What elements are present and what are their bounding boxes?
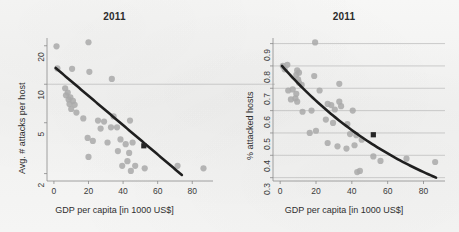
scatter-point bbox=[338, 103, 344, 109]
panel-left-y-axis-title: Avg. # attacks per host bbox=[17, 83, 27, 174]
scatter-point bbox=[370, 153, 376, 159]
scatter-point bbox=[117, 136, 123, 142]
scatter-point bbox=[115, 148, 121, 154]
scatter-point bbox=[126, 150, 132, 156]
y-tick-label: 0.7 bbox=[262, 87, 272, 111]
x-tick-label: 0 bbox=[268, 186, 292, 196]
x-tick-label: 20 bbox=[304, 186, 328, 196]
chart-panel-left: 2011 Avg. # attacks per host 251020 0204… bbox=[0, 0, 229, 232]
scatter-point bbox=[330, 120, 336, 126]
scatter-point bbox=[119, 163, 125, 169]
scatter-point bbox=[351, 142, 357, 148]
scatter-point bbox=[432, 159, 438, 165]
scatter-point bbox=[316, 87, 322, 93]
scatter-point bbox=[85, 154, 91, 160]
scatter-point bbox=[288, 96, 294, 102]
figure-root: 2011 Avg. # attacks per host 251020 0204… bbox=[0, 0, 459, 232]
scatter-point bbox=[53, 43, 59, 49]
x-tick-label: 0 bbox=[42, 186, 66, 196]
panel-left-plot-svg bbox=[47, 38, 213, 181]
scatter-point bbox=[69, 66, 75, 72]
scatter-point bbox=[294, 99, 300, 105]
scatter-point bbox=[123, 141, 129, 147]
scatter-point bbox=[114, 124, 120, 130]
scatter-point bbox=[73, 110, 79, 116]
x-tick-label: 60 bbox=[376, 186, 400, 196]
panel-right-x-axis-title: GDP per capita [in 1000 US$] bbox=[229, 205, 459, 215]
scatter-point bbox=[142, 165, 148, 171]
scatter-point bbox=[86, 69, 92, 75]
scatter-point bbox=[109, 76, 115, 82]
y-tick-label: 20 bbox=[36, 45, 46, 69]
scatter-point bbox=[308, 108, 314, 114]
chart-panel-right: 2011 % attacked hosts 0.30.40.50.60.70.8… bbox=[229, 0, 459, 232]
x-tick-label: 40 bbox=[340, 186, 364, 196]
scatter-point bbox=[334, 143, 340, 149]
scatter-point bbox=[128, 168, 134, 174]
y-tick-label: 0.8 bbox=[262, 65, 272, 89]
x-tick-label: 40 bbox=[111, 186, 135, 196]
scatter-point bbox=[377, 158, 383, 164]
scatter-point bbox=[85, 135, 91, 141]
scatter-point bbox=[124, 158, 130, 164]
scatter-point bbox=[357, 168, 363, 174]
scatter-point bbox=[343, 146, 349, 152]
panel-left-plot-area bbox=[47, 38, 213, 181]
panel-right-plot-svg bbox=[273, 38, 445, 181]
scatter-point bbox=[129, 139, 135, 145]
scatter-point bbox=[200, 165, 206, 171]
scatter-point bbox=[313, 128, 319, 134]
scatter-point bbox=[311, 73, 317, 79]
scatter-point bbox=[68, 106, 74, 112]
scatter-point bbox=[332, 106, 338, 112]
x-tick-label: 80 bbox=[180, 186, 204, 196]
scatter-point bbox=[403, 156, 409, 162]
scatter-point bbox=[98, 125, 104, 131]
x-tick-label: 80 bbox=[412, 186, 436, 196]
scatter-point bbox=[95, 117, 101, 123]
scatter-point bbox=[323, 116, 329, 122]
y-tick-label: 0.6 bbox=[262, 110, 272, 134]
highlight-square-marker bbox=[371, 132, 376, 137]
y-tick-label: 0.4 bbox=[262, 154, 272, 178]
y-tick-label: 5 bbox=[36, 122, 46, 146]
scatter-point bbox=[350, 108, 356, 114]
scatter-point bbox=[299, 109, 305, 115]
y-tick-label: 0.5 bbox=[262, 132, 272, 156]
y-tick-label: 0.9 bbox=[262, 43, 272, 67]
scatter-point bbox=[104, 139, 110, 145]
scatter-point bbox=[108, 124, 114, 130]
scatter-point bbox=[101, 119, 107, 125]
scatter-point bbox=[325, 140, 331, 146]
scatter-point bbox=[90, 138, 96, 144]
trend-line bbox=[282, 66, 436, 178]
y-tick-label: 10 bbox=[36, 83, 46, 107]
panel-right-y-axis-title: % attacked hosts bbox=[245, 91, 255, 160]
scatter-point bbox=[307, 130, 313, 136]
panel-left-title: 2011 bbox=[0, 11, 229, 22]
scatter-point bbox=[85, 39, 91, 45]
x-tick-label: 60 bbox=[146, 186, 170, 196]
panel-right-plot-area bbox=[273, 38, 445, 181]
scatter-point bbox=[127, 117, 133, 123]
x-tick-label: 20 bbox=[77, 186, 101, 196]
panel-right-title: 2011 bbox=[229, 11, 459, 22]
scatter-point bbox=[336, 81, 342, 87]
scatter-point bbox=[80, 115, 86, 121]
panel-left-x-axis-title: GDP per capita [in 1000 US$] bbox=[0, 205, 229, 215]
scatter-point bbox=[312, 39, 318, 45]
highlight-square-marker bbox=[141, 143, 146, 148]
scatter-point bbox=[132, 163, 138, 169]
